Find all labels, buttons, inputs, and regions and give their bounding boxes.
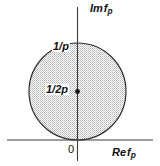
real-axis-label: Re fp bbox=[112, 147, 136, 160]
complex-plane-figure: Im fp Re fp 1/p 1/2p 0 bbox=[0, 0, 160, 166]
origin-label: 0 bbox=[68, 144, 74, 155]
imaginary-axis-prefix: Im bbox=[90, 2, 103, 14]
real-axis-subscript: p bbox=[131, 151, 136, 160]
circle-center-dot bbox=[75, 89, 80, 94]
real-axis-prefix: Re bbox=[112, 146, 126, 158]
imaginary-axis-subscript: p bbox=[107, 7, 112, 16]
figure-canvas bbox=[0, 0, 160, 166]
imaginary-axis-label: Im fp bbox=[90, 3, 112, 16]
circle-center-label: 1/2p bbox=[45, 84, 69, 95]
circle-top-label: 1/p bbox=[52, 41, 70, 52]
